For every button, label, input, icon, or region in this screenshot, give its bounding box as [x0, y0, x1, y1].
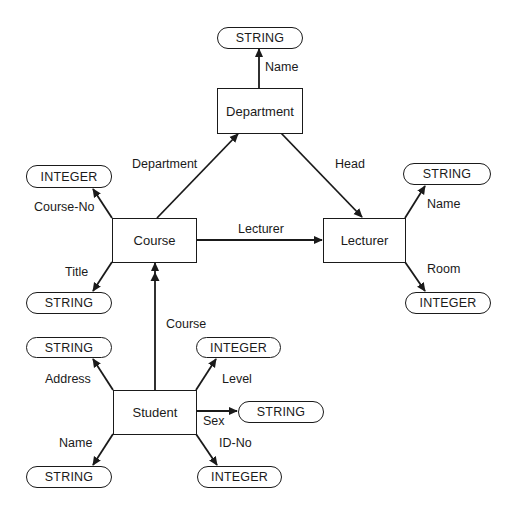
type-course-no-integer[interactable]: INTEGER	[26, 165, 112, 188]
entity-lecturer-label: Lecturer	[341, 233, 389, 248]
type-lecturer-name-string[interactable]: STRING	[403, 163, 491, 185]
edge-label-room: Room	[427, 262, 460, 276]
edge-head	[281, 133, 362, 217]
type-label: INTEGER	[41, 170, 98, 184]
edge-label-dept-name: Name	[265, 60, 298, 74]
edge-lecturer-name	[405, 186, 425, 218]
edges-layer	[0, 0, 516, 511]
edge-title	[93, 262, 112, 291]
edge-label-head: Head	[335, 157, 365, 171]
edge-label-course-no: Course-No	[34, 200, 94, 214]
entity-course[interactable]: Course	[112, 218, 197, 263]
edge-label-student-course: Course	[166, 317, 206, 331]
edge-course-department	[157, 134, 238, 218]
edge-label-title: Title	[65, 265, 88, 279]
edge-room	[405, 262, 425, 291]
entity-student[interactable]: Student	[113, 390, 197, 435]
type-title-string[interactable]: STRING	[26, 292, 112, 314]
type-label: STRING	[45, 296, 93, 310]
type-dept-name-string[interactable]: STRING	[217, 27, 303, 49]
edge-label-sex: Sex	[203, 414, 225, 428]
edge-label-lecturer-name: Name	[427, 197, 460, 211]
type-label: STRING	[423, 167, 471, 181]
entity-department[interactable]: Department	[217, 88, 303, 134]
type-label: STRING	[236, 31, 284, 45]
entity-student-label: Student	[133, 405, 178, 420]
edge-student-name	[93, 434, 113, 465]
type-sex-string[interactable]: STRING	[238, 401, 324, 423]
type-student-name-string[interactable]: STRING	[26, 466, 112, 488]
edge-course-no	[93, 189, 112, 218]
edge-id-no	[196, 434, 217, 465]
edge-label-student-name: Name	[59, 436, 92, 450]
type-label: INTEGER	[420, 296, 477, 310]
type-address-string[interactable]: STRING	[26, 337, 112, 358]
edge-label-id-no: ID-No	[219, 436, 252, 450]
diagram-canvas: Department Course Lecturer Student STRIN…	[0, 0, 516, 511]
edge-label-course-department: Department	[132, 157, 197, 171]
type-label: STRING	[45, 341, 93, 355]
double-arrowhead	[151, 272, 160, 281]
entity-lecturer[interactable]: Lecturer	[323, 218, 406, 263]
type-label: STRING	[45, 470, 93, 484]
edge-label-address: Address	[45, 372, 91, 386]
edge-level	[196, 359, 216, 390]
type-room-integer[interactable]: INTEGER	[405, 292, 491, 314]
edge-label-course-lecturer: Lecturer	[238, 222, 284, 236]
type-label: INTEGER	[211, 470, 268, 484]
edge-address	[93, 359, 113, 390]
type-label: STRING	[257, 405, 305, 419]
entity-department-label: Department	[226, 104, 294, 119]
entity-course-label: Course	[134, 233, 176, 248]
edge-label-level: Level	[222, 372, 252, 386]
type-label: INTEGER	[210, 341, 267, 355]
type-level-integer[interactable]: INTEGER	[196, 337, 281, 358]
type-id-no-integer[interactable]: INTEGER	[197, 466, 282, 488]
